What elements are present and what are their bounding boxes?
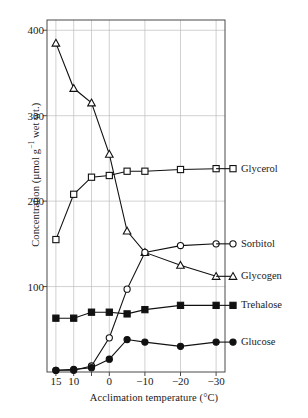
data-point-glycerol xyxy=(177,166,183,172)
data-point-glycogen xyxy=(70,85,78,92)
legend-marker-trehalose xyxy=(230,302,236,308)
x-tick-label: −20 xyxy=(161,376,201,387)
series-line-glycogen xyxy=(56,43,216,276)
data-point-sorbitol xyxy=(106,335,112,341)
data-point-glucose xyxy=(124,336,130,342)
data-point-glycogen xyxy=(106,150,114,157)
data-point-glycerol xyxy=(53,236,59,242)
series-line-glycerol xyxy=(56,169,216,240)
y-tick-label: 400 xyxy=(8,25,44,35)
data-point-sorbitol xyxy=(177,242,183,248)
data-point-trehalose xyxy=(88,309,94,315)
x-tick-label: −30 xyxy=(196,376,236,387)
figure: 100200300400 15100−10−20−30 Concentratio… xyxy=(0,0,308,418)
series-label-glucose: Glucose xyxy=(241,336,275,347)
x-axis-title: Acclimation temperature (°C) xyxy=(0,392,308,403)
data-point-sorbitol xyxy=(124,286,130,292)
series-label-glycerol: Glycerol xyxy=(241,163,278,174)
data-point-glycerol xyxy=(106,172,112,178)
y-axis-title-post: wet wt.) xyxy=(30,103,41,141)
series-label-sorbitol: Sorbitol xyxy=(241,238,275,249)
data-point-trehalose xyxy=(53,315,59,321)
series-line-trehalose xyxy=(56,305,216,318)
series-line-glucose xyxy=(56,340,216,371)
y-axis-title-superscript: −1 xyxy=(27,141,36,149)
data-point-glucose xyxy=(53,367,59,373)
chart-plot-area xyxy=(0,0,308,418)
data-point-glycogen xyxy=(52,39,60,46)
x-tick-label: −10 xyxy=(125,376,165,387)
y-axis-title-pre: Concentration (µmol g xyxy=(30,149,41,247)
legend-marker-sorbitol xyxy=(230,241,236,247)
data-point-sorbitol xyxy=(142,249,148,255)
series-line-sorbitol xyxy=(56,244,216,370)
data-point-glycerol xyxy=(142,168,148,174)
legend-marker-glycerol xyxy=(230,166,236,172)
x-tick-label: 10 xyxy=(54,376,94,387)
series-label-glycogen: Glycogen xyxy=(241,270,282,281)
y-axis-title: Concentration (µmol g−1 wet wt.) xyxy=(27,65,41,285)
data-point-glucose xyxy=(71,366,77,372)
data-point-glucose xyxy=(106,356,112,362)
x-axis-tick-labels: 15100−10−20−30 xyxy=(0,376,308,392)
data-point-trehalose xyxy=(177,302,183,308)
data-point-glycerol xyxy=(88,174,94,180)
data-point-glycerol xyxy=(71,191,77,197)
data-point-glucose xyxy=(177,343,183,349)
data-point-glucose xyxy=(88,365,94,371)
data-point-glycogen xyxy=(123,227,131,234)
data-point-trehalose xyxy=(71,315,77,321)
x-tick-label: 0 xyxy=(89,376,129,387)
data-point-trehalose xyxy=(142,307,148,313)
legend-marker-glucose xyxy=(230,339,236,345)
data-point-glucose xyxy=(142,339,148,345)
series-label-trehalose: Trehalose xyxy=(241,299,282,310)
data-point-trehalose xyxy=(106,309,112,315)
data-point-trehalose xyxy=(124,311,130,317)
data-point-glycerol xyxy=(124,168,130,174)
